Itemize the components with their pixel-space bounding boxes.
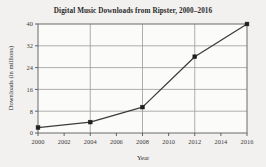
y-axis-title: Downloads (in millions) <box>7 46 15 110</box>
x-tick-label: 2014 <box>214 138 228 145</box>
y-tick-label: 0 <box>30 129 33 136</box>
data-point-marker <box>36 126 40 130</box>
data-point-marker <box>193 55 197 59</box>
x-tick-label: 2004 <box>84 138 98 145</box>
data-point-marker <box>88 120 92 124</box>
x-tick-label: 2016 <box>241 138 254 145</box>
x-axis-title: Year <box>137 154 150 161</box>
y-tick-label: 24 <box>27 64 34 71</box>
x-axis-tick-labels: 200020022004200620082010201220142016 <box>32 138 254 145</box>
x-tick-label: 2002 <box>58 138 71 145</box>
y-axis-tick-labels: 0816243240 <box>27 20 34 136</box>
x-tick-label: 2008 <box>136 138 149 145</box>
y-tick-label: 40 <box>27 20 33 27</box>
y-tick-label: 8 <box>30 108 33 115</box>
line-chart-plot: 0816243240 20002002200420062008201020122… <box>0 0 266 167</box>
x-tick-label: 2000 <box>32 138 45 145</box>
x-tick-label: 2012 <box>188 138 201 145</box>
x-tick-label: 2006 <box>110 138 123 145</box>
x-tick-label: 2010 <box>162 138 175 145</box>
y-tick-label: 16 <box>27 86 33 93</box>
chart-container: Digital Music Downloads from Ripster, 20… <box>0 0 266 167</box>
y-tick-label: 32 <box>27 42 33 49</box>
data-point-marker <box>245 22 249 26</box>
data-point-marker <box>141 105 145 109</box>
